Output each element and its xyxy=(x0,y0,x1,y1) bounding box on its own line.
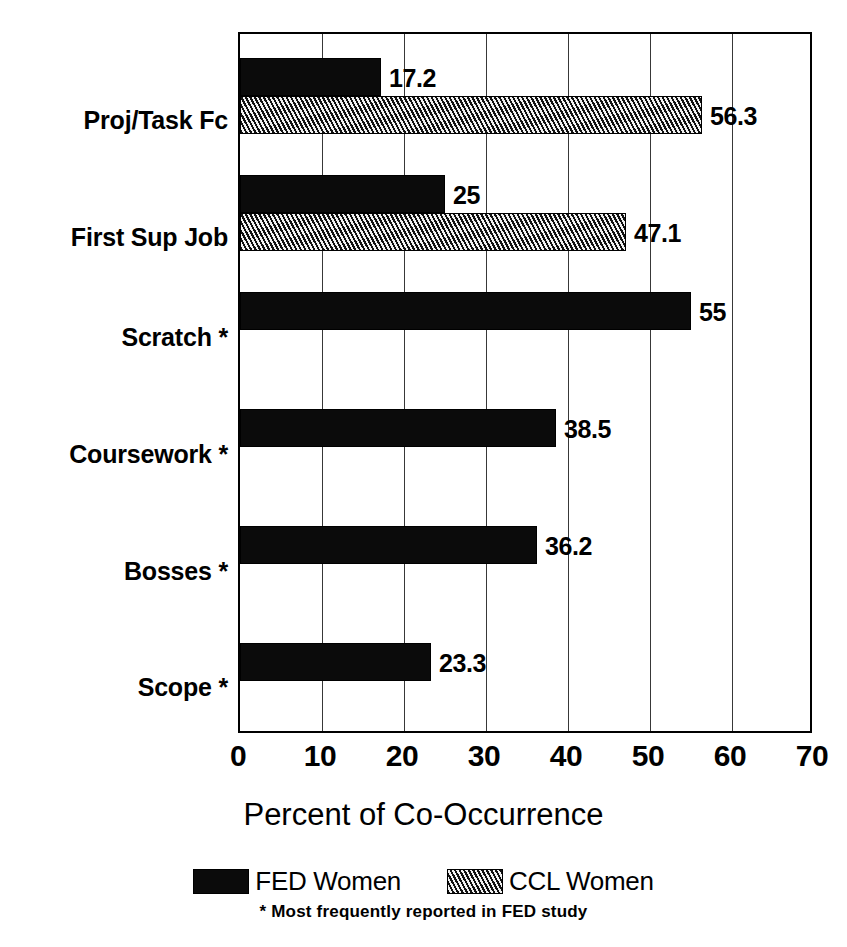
solid-black-swatch-icon xyxy=(193,869,249,894)
value-label-ccl-proj-task-fc: 56.3 xyxy=(710,104,757,129)
category-label-first-sup-job: First Sup Job xyxy=(3,225,228,250)
xtick-10: 10 xyxy=(304,741,336,771)
category-label-scope: Scope * xyxy=(3,675,228,700)
bar-chart: Proj/Task Fc First Sup Job Scratch * Cou… xyxy=(0,0,847,947)
chart-footnote: * Most frequently reported in FED study xyxy=(0,902,847,922)
bar-fed-scope xyxy=(240,643,431,681)
value-label-fed-coursework: 38.5 xyxy=(564,417,611,442)
plot-area: 17.2 56.3 25 47.1 55 38.5 36.2 23.3 xyxy=(238,32,812,733)
value-label-ccl-first-sup-job: 47.1 xyxy=(634,221,681,246)
bars-layer xyxy=(240,34,810,731)
value-label-fed-proj-task-fc: 17.2 xyxy=(389,66,436,91)
category-label-scratch: Scratch * xyxy=(3,325,228,350)
legend: FED Women CCL Women xyxy=(0,866,847,897)
xtick-70: 70 xyxy=(796,741,828,771)
xtick-60: 60 xyxy=(714,741,746,771)
value-label-fed-first-sup-job: 25 xyxy=(453,183,480,208)
bar-fed-scratch xyxy=(240,292,691,330)
legend-label-fed-women: FED Women xyxy=(255,866,401,897)
x-axis-tick-labels: 0 10 20 30 40 50 60 70 xyxy=(238,741,812,781)
bar-fed-bosses xyxy=(240,526,537,564)
xtick-40: 40 xyxy=(550,741,582,771)
category-label-proj-task-fc: Proj/Task Fc xyxy=(3,108,228,133)
legend-item-fed-women: FED Women xyxy=(193,866,401,897)
xtick-30: 30 xyxy=(468,741,500,771)
legend-item-ccl-women: CCL Women xyxy=(447,866,654,897)
category-axis-labels: Proj/Task Fc First Sup Job Scratch * Cou… xyxy=(0,32,228,733)
value-label-fed-bosses: 36.2 xyxy=(545,534,592,559)
legend-label-ccl-women: CCL Women xyxy=(509,866,654,897)
bar-ccl-first-sup-job xyxy=(240,213,626,251)
category-label-coursework: Coursework * xyxy=(3,442,228,467)
bar-ccl-proj-task-fc xyxy=(240,96,702,134)
x-axis-title: Percent of Co-Occurrence xyxy=(0,797,847,833)
xtick-50: 50 xyxy=(632,741,664,771)
category-label-bosses: Bosses * xyxy=(3,559,228,584)
value-label-fed-scratch: 55 xyxy=(699,300,726,325)
xtick-20: 20 xyxy=(386,741,418,771)
bar-fed-proj-task-fc xyxy=(240,58,381,96)
bar-fed-first-sup-job xyxy=(240,175,445,213)
xtick-0: 0 xyxy=(230,741,246,771)
value-label-fed-scope: 23.3 xyxy=(439,651,486,676)
hatched-swatch-icon xyxy=(447,869,503,894)
bar-fed-coursework xyxy=(240,409,556,447)
